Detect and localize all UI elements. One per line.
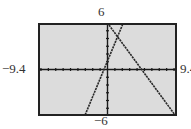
xmin-label: −9.4 xyxy=(2,62,26,75)
ymax-label: 6 xyxy=(98,5,105,18)
calculator-graph-screen xyxy=(38,23,177,116)
xmax-label: 9.4 xyxy=(180,62,191,75)
